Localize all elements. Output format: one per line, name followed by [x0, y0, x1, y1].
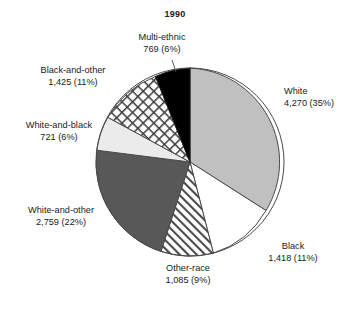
pie-label-white-and-other-value: 2,759 (22%) — [2, 216, 120, 228]
pie-label-white-and-black: White-and-black 721 (6%) — [4, 119, 114, 143]
pie-label-multi-ethnic-value: 769 (6%) — [107, 43, 217, 55]
pie-label-white-and-other: White-and-other 2,759 (22%) — [2, 204, 120, 228]
pie-label-other-race-name: Other-race — [138, 262, 238, 274]
pie-chart-figure: 1990 — [0, 0, 350, 311]
pie-label-white-name: White — [284, 85, 348, 97]
pie-label-black-value: 1,418 (11%) — [243, 252, 343, 264]
pie-label-black-and-other-name: Black-and-other — [18, 64, 128, 76]
pie-label-white-and-black-value: 721 (6%) — [4, 131, 114, 143]
pie-label-multi-ethnic-name: Multi-ethnic — [107, 31, 217, 43]
pie-label-other-race: Other-race 1,085 (9%) — [138, 262, 238, 286]
pie-label-black-and-other-value: 1,425 (11%) — [18, 76, 128, 88]
pie-label-white-and-black-name: White-and-black — [4, 119, 114, 131]
pie-label-white-and-other-name: White-and-other — [2, 204, 120, 216]
pie-label-white: White 4,270 (35%) — [284, 85, 348, 109]
pie-label-multi-ethnic: Multi-ethnic 769 (6%) — [107, 31, 217, 55]
pie-label-black-name: Black — [243, 240, 343, 252]
pie-label-other-race-value: 1,085 (9%) — [138, 274, 238, 286]
pie-label-white-value: 4,270 (35%) — [284, 97, 348, 109]
pie-label-black: Black 1,418 (11%) — [243, 240, 343, 264]
pie-label-black-and-other: Black-and-other 1,425 (11%) — [18, 64, 128, 88]
